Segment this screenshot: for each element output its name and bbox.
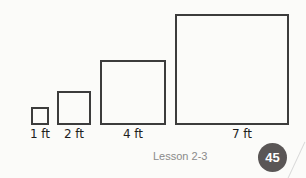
square-4ft [100, 60, 166, 125]
page-fold-line [288, 142, 306, 178]
label-2ft: 2 ft [60, 127, 88, 141]
label-1ft: 1 ft [26, 127, 54, 141]
square-1ft [31, 107, 49, 125]
square-7ft [175, 14, 289, 125]
square-2ft [57, 91, 91, 125]
lesson-label: Lesson 2-3 [153, 150, 207, 162]
label-4ft: 4 ft [119, 127, 147, 141]
label-7ft: 7 ft [228, 127, 256, 141]
page-number-badge: 45 [258, 143, 287, 172]
